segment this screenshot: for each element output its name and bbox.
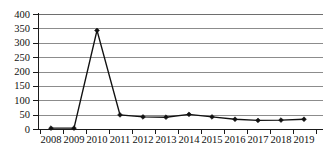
- data-point-marker: [256, 118, 261, 123]
- line-chart: 400 350 300 250 200 150 100 50 0 2008 20…: [0, 0, 323, 153]
- data-point-marker: [233, 117, 238, 122]
- series-layer: [0, 0, 323, 153]
- data-point-marker: [141, 115, 146, 120]
- data-point-marker: [95, 28, 100, 33]
- data-point-marker: [210, 115, 215, 120]
- data-point-marker: [49, 126, 54, 131]
- data-point-marker: [118, 113, 123, 118]
- data-point-marker: [302, 117, 307, 122]
- data-point-marker: [187, 112, 192, 117]
- data-point-marker: [279, 118, 284, 123]
- series-line: [51, 30, 304, 128]
- data-point-marker: [164, 115, 169, 120]
- data-point-marker: [72, 126, 77, 131]
